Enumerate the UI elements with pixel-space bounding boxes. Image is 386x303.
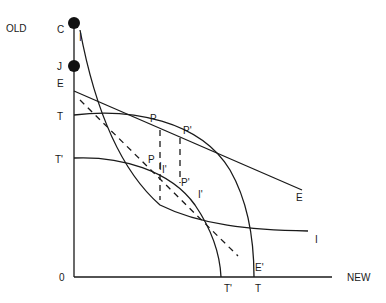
label-t-bottom: T (255, 283, 261, 294)
label-i-right: I (315, 234, 318, 245)
label-p-prime-lower: P' (181, 177, 190, 188)
label-p-lower: P (148, 154, 155, 165)
point-j (68, 60, 80, 72)
label-p-upper: P (150, 113, 157, 124)
label-e-prime: E' (255, 262, 264, 273)
curve-t (74, 113, 254, 277)
curve-i (80, 30, 308, 231)
trade-diagram: OLD NEW 0 C J I E T T' P P' P I I' P' I'… (0, 0, 386, 303)
label-j: J (57, 61, 62, 72)
label-e-top: E (57, 78, 64, 89)
label-t-prime-left: T' (55, 154, 63, 165)
line-e (74, 91, 302, 190)
label-i-prime-mid: I' (162, 164, 167, 175)
label-c: C (57, 24, 64, 35)
y-axis-label: OLD (6, 23, 27, 34)
point-c (68, 17, 80, 29)
dashed-line (80, 100, 238, 256)
origin-label: 0 (59, 272, 65, 283)
label-t-left: T (57, 111, 63, 122)
label-p-prime-upper: P' (183, 125, 192, 136)
label-e-right: E (296, 192, 303, 203)
label-i-prime-right: I' (198, 189, 203, 200)
label-t-prime-bottom: T' (224, 283, 232, 294)
label-i-top: I (79, 32, 82, 43)
x-axis-label: NEW (347, 272, 371, 283)
